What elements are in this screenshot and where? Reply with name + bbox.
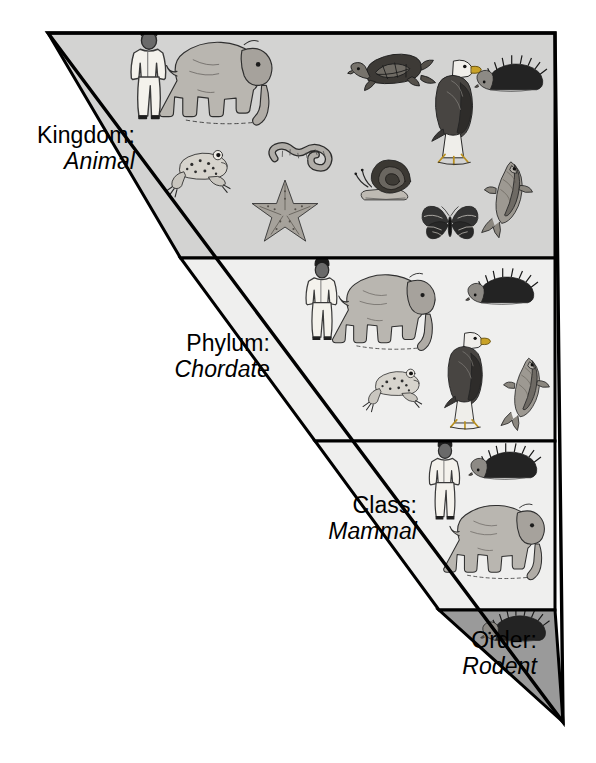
rank-label-kingdom: Kingdom: Animal xyxy=(0,122,135,174)
rank-name-phylum: Phylum: xyxy=(55,330,270,356)
rank-name-class: Class: xyxy=(185,492,417,518)
rank-name-kingdom: Kingdom: xyxy=(0,122,135,148)
rank-taxon-kingdom: Animal xyxy=(0,148,135,174)
rank-label-phylum: Phylum: Chordate xyxy=(55,330,270,382)
rank-taxon-order: Rodent xyxy=(290,653,537,679)
rank-taxon-class: Mammal xyxy=(185,518,417,544)
rank-label-class: Class: Mammal xyxy=(185,492,417,544)
diagram-canvas: Kingdom: Animal Phylum: Chordate Class: … xyxy=(0,0,596,763)
rank-name-order: Order: xyxy=(290,627,537,653)
rank-taxon-phylum: Chordate xyxy=(55,356,270,382)
rank-label-order: Order: Rodent xyxy=(290,627,537,679)
